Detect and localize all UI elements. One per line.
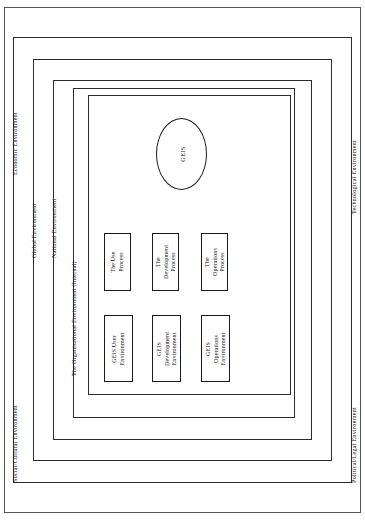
box-operations-process-label: The Operations Process [203,248,226,276]
geis-ellipse-label: GEIS [178,146,185,161]
box-development-process-line3: Process [169,245,177,279]
box-geis-user-environment: GEIS User Environment [104,315,133,382]
diagram-canvas: Social/Cultural Environment Economic Env… [0,0,365,520]
box-operations-process-line1: The [203,248,211,276]
box-operations-process: The Operations Process [201,233,228,291]
box-geis-operations-environment-line1: GEIS [204,332,212,365]
box-use-process-line2: Process [118,251,126,272]
box-operations-process-line3: Process [218,248,226,276]
box-geis-operations-environment-label: GEIS Operations Environment [204,332,227,365]
box-geis-development-environment-line1: GEIS [155,332,163,366]
box-geis-operations-environment-line3: Environment [219,332,227,365]
box-geis-development-environment-line2: Development [163,332,171,366]
box-development-process-line1: The [154,245,162,279]
box-geis-user-environment-line1: GEIS User [111,332,119,365]
box-use-process-line1: The Use [110,251,118,272]
box-geis-user-environment-line2: Environment [119,332,127,365]
box-operations-process-line2: Operations [211,248,219,276]
box-geis-development-environment: GEIS Development Environment [152,315,181,382]
box-development-process: The Development Process [152,233,179,291]
box-development-process-line2: Development [162,245,170,279]
box-geis-operations-environment: GEIS Operations Environment [201,315,230,382]
geis-ellipse: GEIS [156,118,207,190]
box-use-process-label: The Use Process [110,251,125,272]
box-geis-development-environment-line3: Environment [170,332,178,366]
box-geis-user-environment-label: GEIS User Environment [111,332,126,365]
box-geis-operations-environment-line2: Operations [212,332,220,365]
box-use-process: The Use Process [104,233,131,291]
box-geis-development-environment-label: GEIS Development Environment [155,332,178,366]
box-development-process-label: The Development Process [154,245,177,279]
